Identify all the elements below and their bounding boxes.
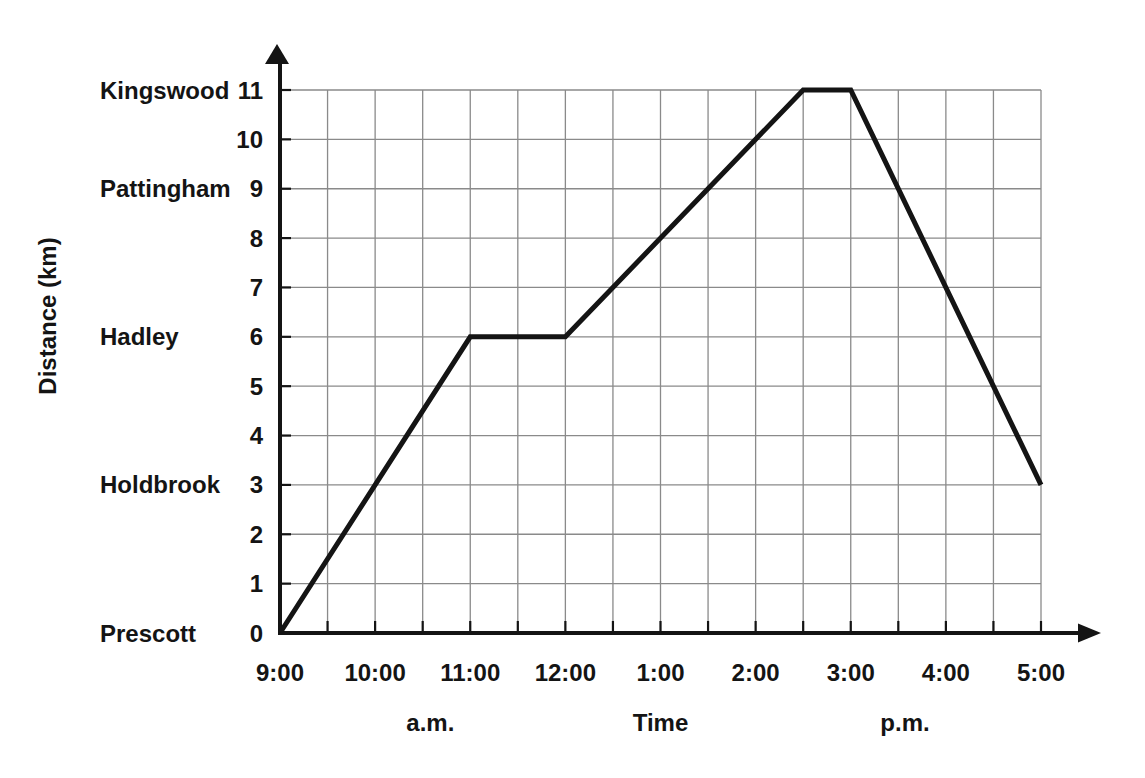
station-label: Kingswood — [100, 77, 229, 104]
y-tick-label: 4 — [250, 422, 264, 449]
x-tick-label: 3:00 — [827, 659, 875, 686]
y-axis-arrow-icon — [265, 44, 289, 64]
y-tick-label: 6 — [250, 323, 263, 350]
x-tick-label: 2:00 — [732, 659, 780, 686]
y-tick-label: 10 — [236, 126, 263, 153]
period-label: p.m. — [880, 709, 929, 736]
period-label: a.m. — [406, 709, 454, 736]
y-tick-label: 2 — [250, 521, 263, 548]
y-tick-label: 1 — [250, 570, 263, 597]
chart-svg: 9:0010:0011:0012:001:002:003:004:005:00a… — [0, 0, 1145, 778]
station-label: Pattingham — [100, 175, 231, 202]
x-tick-label: 5:00 — [1017, 659, 1065, 686]
distance-time-graph: 9:0010:0011:0012:001:002:003:004:005:00a… — [0, 0, 1145, 778]
x-tick-label: 12:00 — [535, 659, 596, 686]
y-tick-label: 5 — [250, 373, 263, 400]
x-tick-label: 10:00 — [344, 659, 405, 686]
station-label: Holdbrook — [100, 471, 221, 498]
x-axis-arrow-icon — [1078, 624, 1101, 643]
y-tick-label: 11 — [238, 77, 263, 104]
y-tick-label: 8 — [250, 225, 263, 252]
x-axis-title: Time — [633, 709, 689, 736]
y-tick-label: 0 — [250, 620, 263, 647]
x-tick-label: 9:00 — [256, 659, 304, 686]
y-tick-label: 9 — [250, 175, 263, 202]
station-label: Prescott — [100, 620, 196, 647]
x-tick-label: 11:00 — [440, 659, 500, 686]
x-tick-label: 4:00 — [922, 659, 970, 686]
y-axis-title: Distance (km) — [34, 237, 61, 394]
y-tick-label: 7 — [250, 274, 263, 301]
station-label: Hadley — [100, 323, 179, 350]
x-tick-label: 1:00 — [636, 659, 684, 686]
y-tick-label: 3 — [250, 471, 263, 498]
